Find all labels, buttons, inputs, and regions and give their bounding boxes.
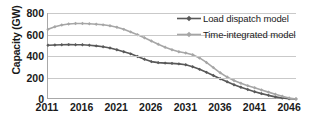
data-point-marker	[81, 43, 84, 46]
data-point-marker	[74, 22, 77, 25]
x-tick-label: 2016	[70, 101, 93, 113]
data-point-marker	[157, 61, 160, 64]
x-tick-label: 2021	[104, 101, 127, 113]
x-tick-label: 2026	[139, 101, 162, 113]
data-point-marker	[101, 23, 104, 26]
capacity-line-chart: Capacity (GW) 8006004002000 201120162021…	[0, 0, 310, 125]
data-point-marker	[46, 44, 49, 47]
legend-marker-icon	[176, 29, 202, 40]
data-point-marker	[95, 23, 98, 26]
legend-marker-icon	[176, 13, 202, 24]
data-point-marker	[177, 50, 180, 53]
legend: Load dispatch modelTime-integrated model	[176, 10, 308, 42]
gridline	[48, 78, 296, 79]
data-point-marker	[108, 24, 111, 27]
data-point-marker	[170, 62, 173, 65]
x-tick-label: 2031	[174, 101, 197, 113]
data-point-marker	[88, 44, 91, 47]
data-point-marker	[60, 43, 63, 46]
data-point-marker	[74, 43, 77, 46]
series-1	[46, 43, 297, 101]
legend-entry[interactable]: Load dispatch model	[176, 10, 308, 26]
data-point-marker	[67, 22, 70, 25]
y-tick-label: 200	[16, 72, 44, 84]
data-point-marker	[53, 43, 56, 46]
data-point-marker	[88, 22, 91, 25]
data-point-marker	[177, 62, 180, 65]
x-tick-label: 2011	[36, 101, 59, 113]
y-tick-label: 600	[16, 29, 44, 41]
data-point-marker	[101, 45, 104, 48]
y-tick-label: 800	[16, 7, 44, 19]
data-point-marker	[95, 44, 98, 47]
data-point-marker	[115, 48, 118, 51]
gridline	[48, 56, 296, 57]
data-point-marker	[81, 22, 84, 25]
y-tick-label: 400	[16, 50, 44, 62]
legend-label: Time-integrated model	[203, 29, 296, 40]
data-point-marker	[184, 51, 187, 54]
data-point-marker	[267, 94, 270, 97]
data-point-marker	[67, 43, 70, 46]
data-point-marker	[260, 92, 263, 95]
legend-entry[interactable]: Time-integrated model	[176, 26, 308, 42]
data-point-marker	[108, 46, 111, 49]
data-point-marker	[60, 23, 63, 26]
data-point-marker	[163, 61, 166, 64]
data-point-marker	[184, 63, 187, 66]
x-tick-label: 2036	[208, 101, 231, 113]
x-tick-label: 2041	[243, 101, 266, 113]
series-line	[48, 45, 296, 99]
x-tick-label: 2046	[277, 101, 300, 113]
legend-label: Load dispatch model	[203, 13, 289, 24]
x-axis-tick-labels: 20112016202120262031203620412046	[47, 101, 296, 119]
y-axis-tick-labels: 8006004002000	[16, 8, 44, 100]
